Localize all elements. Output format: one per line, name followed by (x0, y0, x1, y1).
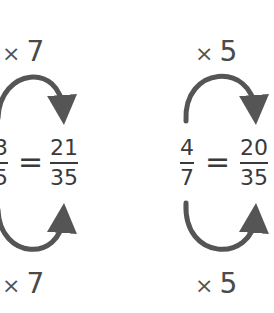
denominator: 35 (50, 167, 78, 189)
denominator: 7 (180, 167, 194, 189)
right-fraction-a: 4 7 (180, 137, 194, 189)
left-fraction-b: 21 35 (50, 137, 78, 189)
left-top-multiplier: ×7 (2, 38, 44, 66)
numerator: 20 (240, 137, 268, 159)
times-symbol: × (2, 273, 20, 298)
numerator: 4 (180, 137, 194, 159)
right-example: ×5 4 7 = 20 35 ×5 (137, 0, 274, 313)
times-symbol: × (195, 41, 213, 66)
left-example: ×7 3 5 = 21 35 ×7 (0, 0, 137, 313)
multiplier-value: 5 (219, 35, 237, 68)
multiplier-value: 7 (26, 267, 44, 300)
fraction-bar (0, 162, 8, 164)
numerator: 3 (0, 137, 8, 159)
left-fraction-a: 3 5 (0, 137, 8, 189)
multiplier-value: 7 (26, 35, 44, 68)
multiplier-value: 5 (219, 267, 237, 300)
right-bottom-multiplier: ×5 (195, 270, 237, 298)
left-bottom-multiplier: ×7 (2, 270, 44, 298)
fraction-bar (240, 162, 268, 164)
right-equals-sign: = (205, 147, 230, 177)
right-top-multiplier: ×5 (195, 38, 237, 66)
times-symbol: × (2, 41, 20, 66)
left-equals-sign: = (18, 147, 43, 177)
fraction-bar (180, 162, 194, 164)
right-fraction-b: 20 35 (240, 137, 268, 189)
numerator: 21 (50, 137, 78, 159)
fraction-bar (50, 162, 78, 164)
times-symbol: × (195, 273, 213, 298)
denominator: 5 (0, 167, 8, 189)
denominator: 35 (240, 167, 268, 189)
